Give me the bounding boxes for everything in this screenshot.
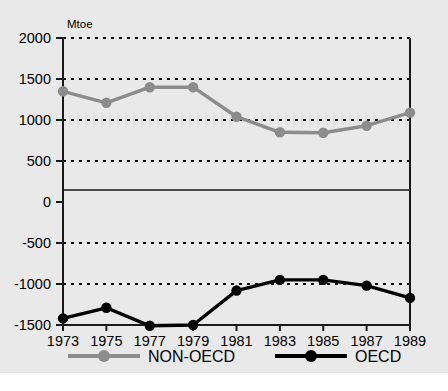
data-point bbox=[58, 86, 68, 96]
data-point bbox=[231, 285, 241, 295]
x-tick-label: 1989 bbox=[394, 333, 426, 349]
data-point bbox=[405, 107, 415, 117]
data-point bbox=[275, 275, 285, 285]
data-point bbox=[101, 98, 111, 108]
data-point bbox=[188, 320, 198, 330]
figure-bottom-margin bbox=[0, 373, 448, 391]
data-point bbox=[361, 121, 371, 131]
y-axis-tick-labels: 2000150010005000-500-1000-1500 bbox=[14, 30, 51, 333]
x-tick-label: 1981 bbox=[220, 333, 252, 349]
data-point bbox=[318, 275, 328, 285]
data-point bbox=[145, 321, 155, 331]
gridlines-group bbox=[63, 38, 410, 325]
x-axis-tick-labels: 197319751977197919811983198519871989 bbox=[47, 333, 426, 349]
chart-legend: NON-OECDOECD bbox=[68, 348, 401, 365]
data-point bbox=[188, 82, 198, 92]
series-line bbox=[63, 87, 410, 133]
y-tick-label: -1500 bbox=[14, 317, 51, 333]
legend-item-oecd: OECD bbox=[275, 348, 401, 365]
y-tick-label: 2000 bbox=[19, 30, 51, 46]
y-tick-label: -500 bbox=[22, 235, 51, 251]
x-tick-label: 1973 bbox=[47, 333, 79, 349]
line-chart-canvas: 2000150010005000-500-1000-1500 197319751… bbox=[0, 0, 448, 391]
legend-marker bbox=[98, 350, 110, 362]
data-point bbox=[318, 128, 328, 138]
data-point bbox=[101, 303, 111, 313]
y-tick-label: 500 bbox=[27, 153, 51, 169]
x-tick-label: 1983 bbox=[264, 333, 296, 349]
y-tick-label: 0 bbox=[43, 194, 51, 210]
data-point bbox=[275, 127, 285, 137]
data-point bbox=[145, 82, 155, 92]
x-tick-label: 1985 bbox=[307, 333, 339, 349]
legend-marker bbox=[305, 350, 317, 362]
x-tick-label: 1979 bbox=[177, 333, 209, 349]
legend-label: OECD bbox=[355, 348, 401, 365]
y-tick-label: 1000 bbox=[19, 112, 51, 128]
chart-figure: 2000150010005000-500-1000-1500 197319751… bbox=[0, 0, 448, 391]
legend-item-non-oecd: NON-OECD bbox=[68, 348, 235, 365]
data-point bbox=[405, 293, 415, 303]
data-point bbox=[231, 112, 241, 122]
legend-label: NON-OECD bbox=[148, 348, 235, 365]
y-tick-label: 1500 bbox=[19, 71, 51, 87]
x-tick-label: 1987 bbox=[350, 333, 382, 349]
y-tick-label: -1000 bbox=[14, 276, 51, 292]
data-point bbox=[361, 280, 371, 290]
x-tick-label: 1977 bbox=[134, 333, 166, 349]
y-axis-unit-label: Mtoe bbox=[67, 18, 93, 30]
x-tick-label: 1975 bbox=[90, 333, 122, 349]
series-non-oecd bbox=[58, 82, 415, 138]
y-tick-marks-group bbox=[56, 38, 63, 325]
data-point bbox=[58, 313, 68, 323]
